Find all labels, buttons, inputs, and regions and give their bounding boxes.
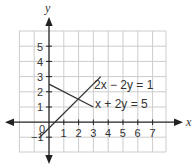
x-axis-right-arrow-icon xyxy=(174,119,183,126)
x-tick-label: 3 xyxy=(90,127,96,139)
x-tick-label: 6 xyxy=(135,127,141,139)
coordinate-plane: 1 2 3 4 5 6 7 1 2 3 4 5 −1 0 y x 2x − 2y… xyxy=(0,0,192,166)
x-tick-label: 4 xyxy=(105,127,111,139)
y-tick-label: 2 xyxy=(37,86,43,98)
y-axis-label: y xyxy=(44,1,51,15)
line-x-plus-2y-eq-5 xyxy=(49,84,93,107)
x-axis-label: x xyxy=(185,115,192,129)
y-axis-down-arrow-icon xyxy=(45,155,52,164)
x-tick-label: 7 xyxy=(149,127,155,139)
x-axis-left-arrow-icon xyxy=(5,119,14,126)
x-axis xyxy=(5,119,183,126)
x-tick-label: 1 xyxy=(61,127,67,139)
equation-label-1: 2x − 2y = 1 xyxy=(94,78,154,92)
equation-label-2: x + 2y = 5 xyxy=(95,97,148,111)
y-tick-label: 5 xyxy=(37,41,43,53)
x-tick-label: 5 xyxy=(120,127,126,139)
y-axis xyxy=(45,17,52,164)
y-tick-label: 3 xyxy=(37,71,43,83)
y-tick-label: 1 xyxy=(37,101,43,113)
x-tick-label: 2 xyxy=(76,127,82,139)
y-tick-label: 4 xyxy=(37,56,43,68)
y-axis-up-arrow-icon xyxy=(45,17,52,26)
